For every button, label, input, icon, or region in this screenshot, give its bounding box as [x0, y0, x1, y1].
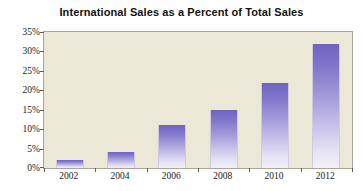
- y-axis-tick-mark: [40, 149, 44, 150]
- bar[interactable]: [107, 152, 135, 168]
- y-axis-tick-mark: [40, 32, 44, 33]
- bars-layer: [44, 32, 352, 168]
- y-axis-tick-label: 35%: [2, 27, 40, 37]
- y-axis-tick-label: 25%: [2, 66, 40, 76]
- y-axis-tick-label: 15%: [2, 105, 40, 115]
- y-axis-tick-mark: [40, 51, 44, 52]
- chart-title: International Sales as a Percent of Tota…: [0, 6, 363, 18]
- bar-group: [198, 32, 249, 168]
- y-axis-tick-mark: [40, 71, 44, 72]
- x-axis-tick-label: 2004: [111, 171, 130, 181]
- y-axis-tick-label: 0%: [2, 163, 40, 173]
- bar-group: [249, 32, 300, 168]
- x-axis-labels: 200220042006200820102012: [43, 171, 353, 189]
- y-axis-labels: 0%5%10%15%20%25%30%35%: [0, 31, 40, 169]
- x-axis-tick-label: 2010: [265, 171, 284, 181]
- y-axis-tick-mark: [40, 129, 44, 130]
- x-axis-tick-label: 2006: [162, 171, 181, 181]
- bar[interactable]: [312, 44, 340, 168]
- bar[interactable]: [158, 125, 186, 168]
- bar[interactable]: [210, 110, 238, 168]
- x-axis-tick-label: 2008: [213, 171, 232, 181]
- chart-figure: International Sales as a Percent of Tota…: [0, 0, 363, 191]
- y-axis-tick-label: 10%: [2, 124, 40, 134]
- bar-group: [44, 32, 95, 168]
- bar[interactable]: [261, 83, 289, 168]
- bar[interactable]: [56, 160, 84, 168]
- x-axis-tick-label: 2002: [59, 171, 78, 181]
- y-axis-tick-label: 30%: [2, 46, 40, 56]
- y-axis-tick-label: 20%: [2, 85, 40, 95]
- plot-area: [43, 31, 353, 169]
- y-axis-tick-label: 5%: [2, 144, 40, 154]
- bar-group: [147, 32, 198, 168]
- bar-group: [95, 32, 146, 168]
- y-axis-tick-mark: [40, 110, 44, 111]
- y-axis-tick-mark: [40, 90, 44, 91]
- bar-group: [301, 32, 352, 168]
- x-axis-tick-label: 2012: [316, 171, 335, 181]
